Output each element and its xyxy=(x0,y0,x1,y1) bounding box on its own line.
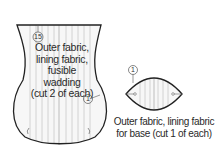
body-label-line: fusible xyxy=(22,65,102,77)
base-seam-allowance-value: 1 xyxy=(130,66,136,73)
base-label-line: Outer fabric, lining fabric xyxy=(112,116,216,128)
body-label-line: (cut 2 of each) xyxy=(22,88,102,100)
body-label-line: Outer fabric, xyxy=(22,42,102,54)
body-piece-label: Outer fabric, lining fabric, fusible wad… xyxy=(22,42,102,100)
base-label-line: for base (cut 1 of each) xyxy=(112,128,216,140)
seam-allowance-15-value: 15 xyxy=(34,33,42,40)
base-pattern-piece xyxy=(126,66,182,121)
base-piece-label: Outer fabric, lining fabric for base (cu… xyxy=(112,116,216,140)
